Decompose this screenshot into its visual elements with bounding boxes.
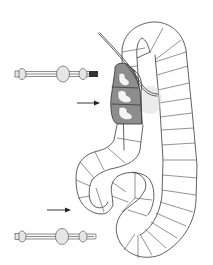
lower-arrow-icon: [47, 208, 71, 213]
lower-bolt-icon: [15, 229, 96, 245]
upper-arrow-icon: [77, 101, 100, 106]
segmented-tube: [76, 22, 197, 258]
upper-bolt-icon: [15, 66, 98, 82]
diagram-illustration: [0, 0, 213, 265]
